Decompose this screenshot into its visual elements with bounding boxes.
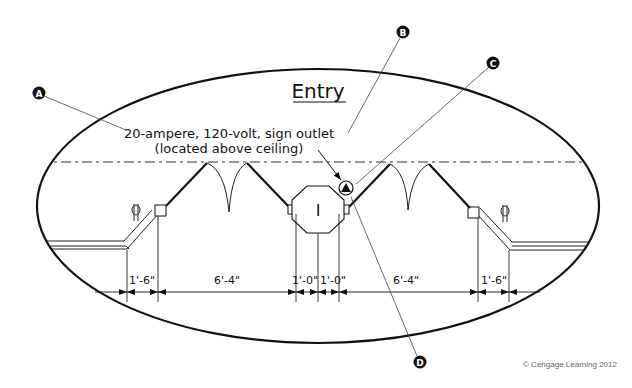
center-symbol: I — [316, 201, 321, 220]
left-switch-icon — [132, 204, 140, 221]
right-switch-icon — [501, 205, 509, 222]
dim-left-6-4: 6'-4" — [214, 274, 240, 287]
left-post — [155, 205, 166, 216]
svg-text:B: B — [400, 28, 407, 38]
left-wall — [30, 210, 158, 249]
dim-left-1-6: 1'-6" — [129, 274, 155, 287]
svg-text:A: A — [36, 89, 43, 99]
copyright-notice: © Cengage Learning 2012 — [523, 360, 617, 369]
dim-right-6-4: 6'-4" — [393, 274, 419, 287]
right-wall — [476, 208, 610, 250]
dim-center-left-1-0: 1'-0" — [292, 274, 318, 287]
svg-text:D: D — [416, 358, 423, 368]
callout-leaders — [44, 38, 489, 356]
sign-outlet-icon — [339, 181, 353, 195]
callout-C: C — [487, 57, 500, 70]
callout-B: B — [397, 26, 410, 39]
note-line-2: (located above ceiling) — [155, 141, 304, 156]
note-arrow — [318, 150, 341, 180]
right-post — [468, 207, 479, 218]
callout-D: D — [414, 356, 427, 369]
note-line-1: 20-ampere, 120-volt, sign outlet — [124, 126, 334, 141]
dim-center-right-1-0: 1'-0" — [320, 274, 346, 287]
dim-right-1-6: 1'-6" — [481, 274, 507, 287]
svg-text:C: C — [490, 59, 497, 69]
entry-detail-diagram: I — [0, 0, 632, 388]
callout-A: A — [33, 87, 46, 100]
diagram-title: Entry — [291, 79, 344, 103]
